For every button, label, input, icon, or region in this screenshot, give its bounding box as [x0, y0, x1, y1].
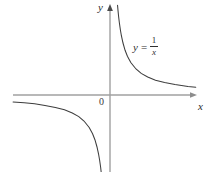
hyperbola-figure: y x 0 y = 1 x: [0, 0, 215, 172]
equation-equals-sign: =: [141, 41, 147, 53]
curve-branch-negative: [13, 102, 101, 172]
origin-label: 0: [99, 97, 104, 107]
y-axis-label: y: [98, 2, 103, 13]
equation-numerator: 1: [151, 36, 158, 46]
equation-lhs: y: [133, 41, 138, 53]
plot-canvas: [0, 0, 215, 172]
equation-denominator: x: [151, 47, 157, 57]
equation-annotation: y = 1 x: [133, 36, 158, 57]
y-axis-arrowhead: [107, 4, 113, 11]
x-axis-label: x: [198, 101, 203, 112]
equation-fraction: 1 x: [150, 36, 158, 57]
x-axis-arrowhead: [190, 92, 197, 98]
